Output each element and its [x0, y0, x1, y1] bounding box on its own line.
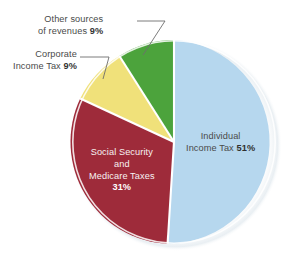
- callout-corporate-income-tax: Corporate Income Tax 9%: [13, 49, 77, 72]
- callout-other-sources-line1: Other sources: [38, 14, 103, 26]
- callout-corporate-income-tax-line1: Corporate: [13, 49, 77, 61]
- slice-label-social-line3: Medicare Taxes: [89, 171, 155, 183]
- callout-other-sources: Other sources of revenues 9%: [38, 14, 103, 37]
- slice-label-individual-percent: 51%: [236, 143, 255, 153]
- slice-label-individual-income-tax: Individual Income Tax 51%: [186, 131, 255, 155]
- callout-corporate-income-tax-line2-text: Income Tax: [13, 61, 63, 71]
- slice-label-social-line1: Social Security: [89, 147, 155, 159]
- slice-label-individual-line1: Individual: [186, 131, 255, 143]
- slice-label-individual-line2-text: Income Tax: [186, 143, 236, 153]
- slice-label-social-percent: 31%: [89, 182, 155, 194]
- callout-other-sources-percent: 9%: [90, 26, 103, 36]
- callout-other-sources-line2: of revenues 9%: [38, 26, 103, 38]
- slice-label-individual-line2: Income Tax 51%: [186, 143, 255, 155]
- callout-corporate-income-tax-percent: 9%: [63, 61, 76, 71]
- callout-corporate-income-tax-line2: Income Tax 9%: [13, 61, 77, 73]
- slice-label-social-security-medicare: Social Security and Medicare Taxes 31%: [89, 147, 155, 194]
- slice-label-social-line2: and: [89, 159, 155, 171]
- callout-other-sources-line2-text: of revenues: [38, 26, 90, 36]
- pie-chart-figure: Other sources of revenues 9% Corporate I…: [0, 0, 297, 266]
